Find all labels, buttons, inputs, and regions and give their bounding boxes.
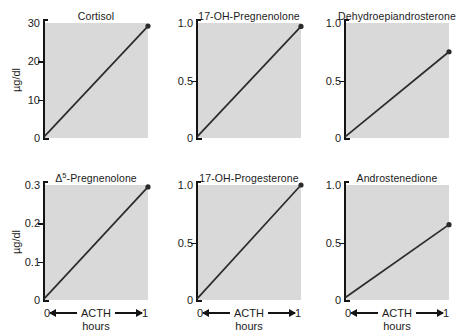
y-axis-label: µg/dl bbox=[10, 57, 22, 103]
y-axis-bottom-cap bbox=[344, 138, 350, 140]
y-axis-tick-label: 0 bbox=[34, 132, 40, 144]
y-axis-tick-label: 1.0 bbox=[178, 179, 193, 191]
y-axis-bottom-cap bbox=[43, 300, 49, 302]
panel-title: Androstenedione bbox=[357, 172, 438, 184]
panel-title: 17-OH-Progesterone bbox=[199, 172, 298, 184]
data-series-plot bbox=[44, 23, 148, 138]
data-line bbox=[345, 52, 449, 137]
panel-title: Cortisol bbox=[78, 10, 114, 22]
y-axis-top-cap bbox=[196, 181, 201, 183]
arrow-right-icon bbox=[115, 312, 142, 314]
data-line bbox=[345, 225, 449, 298]
plot-area-wrapper: 00.10.20.3 bbox=[44, 185, 148, 300]
x-axis-arrow-group: ACTH bbox=[50, 308, 142, 319]
plot-area-wrapper: 00.51.0 bbox=[345, 185, 449, 300]
y-axis-top-cap bbox=[43, 181, 48, 183]
data-point-marker bbox=[145, 23, 150, 28]
x-axis: 0ACTH1hours bbox=[197, 306, 301, 333]
y-axis-tick-label: 0 bbox=[187, 132, 193, 144]
data-line bbox=[197, 185, 301, 299]
y-axis-bottom-cap bbox=[196, 300, 202, 302]
y-axis-tick-label: 0.5 bbox=[326, 75, 341, 87]
panel-title: Dehydroepiandrosterone bbox=[338, 10, 456, 22]
y-axis-tick-label: 1.0 bbox=[326, 17, 341, 29]
x-axis-name: ACTH bbox=[80, 308, 112, 319]
arrow-left-icon bbox=[203, 312, 230, 314]
chart-panel: Dehydroepiandrosterone00.51.0 bbox=[315, 10, 453, 180]
data-line bbox=[44, 26, 148, 137]
chart-panel: 17-OH-Pregnenolone00.51.0 bbox=[167, 10, 305, 180]
y-axis-top-cap bbox=[43, 19, 48, 21]
x-axis: 0ACTH1hours bbox=[44, 306, 148, 333]
data-series-plot bbox=[197, 185, 301, 300]
y-axis-top-cap bbox=[344, 181, 349, 183]
y-axis-tick-label: 0.1 bbox=[25, 256, 40, 268]
data-point-marker bbox=[298, 182, 303, 187]
data-point-marker bbox=[298, 24, 303, 29]
y-axis-tick-label: 0 bbox=[34, 294, 40, 306]
data-series-plot bbox=[44, 185, 148, 300]
x-axis-arrow-group: ACTH bbox=[351, 308, 443, 319]
x-axis-units-label: hours bbox=[197, 320, 301, 333]
data-series-plot bbox=[345, 185, 449, 300]
y-axis-tick-label: 20 bbox=[28, 55, 40, 67]
y-axis-tick-label: 0.5 bbox=[326, 237, 341, 249]
data-point-marker bbox=[446, 49, 451, 54]
data-point-marker bbox=[446, 222, 451, 227]
y-axis-tick-label: 0.3 bbox=[25, 179, 40, 191]
y-axis-bottom-cap bbox=[196, 138, 202, 140]
y-axis-tick-label: 0.2 bbox=[25, 217, 40, 229]
arrow-left-icon bbox=[351, 312, 378, 314]
arrow-left-icon bbox=[50, 312, 77, 314]
y-axis-tick-label: 30 bbox=[28, 17, 40, 29]
panel-title: Δ5-Pregnenolone bbox=[55, 172, 137, 184]
x-axis-units-label: hours bbox=[44, 320, 148, 333]
x-axis-name: ACTH bbox=[233, 308, 265, 319]
y-axis-label: µg/dl bbox=[10, 219, 22, 265]
x-axis-arrow-row: 0ACTH1 bbox=[44, 306, 148, 320]
steroid-response-figure: Cortisol0102030µg/dl17-OH-Pregnenolone00… bbox=[0, 0, 467, 336]
x-axis-arrow-row: 0ACTH1 bbox=[197, 306, 301, 320]
y-axis-tick-label: 10 bbox=[28, 94, 40, 106]
data-line bbox=[197, 26, 301, 136]
y-axis-tick-label: 0 bbox=[335, 294, 341, 306]
y-axis-tick-label: 0.5 bbox=[178, 75, 193, 87]
y-axis-bottom-cap bbox=[43, 138, 49, 140]
x-axis-name: ACTH bbox=[381, 308, 413, 319]
x-axis-units-label: hours bbox=[345, 320, 449, 333]
x-axis-arrow-group: ACTH bbox=[203, 308, 295, 319]
y-axis-bottom-cap bbox=[344, 300, 350, 302]
plot-area-wrapper: 00.51.0 bbox=[197, 185, 301, 300]
chart-panel: Cortisol0102030µg/dl bbox=[14, 10, 152, 180]
arrow-right-icon bbox=[268, 312, 295, 314]
chart-panel: Androstenedione00.51.00ACTH1hours bbox=[315, 172, 453, 336]
y-axis-tick-label: 0.5 bbox=[178, 237, 193, 249]
y-axis-top-cap bbox=[196, 19, 201, 21]
y-axis-top-cap bbox=[344, 19, 349, 21]
y-axis-tick-label: 1.0 bbox=[178, 17, 193, 29]
plot-area-wrapper: 0102030 bbox=[44, 23, 148, 138]
panel-title: 17-OH-Pregnenolone bbox=[198, 10, 300, 22]
chart-panel: 17-OH-Progesterone00.51.00ACTH1hours bbox=[167, 172, 305, 336]
data-point-marker bbox=[145, 184, 150, 189]
y-axis-tick-label: 0 bbox=[335, 132, 341, 144]
x-axis-arrow-row: 0ACTH1 bbox=[345, 306, 449, 320]
arrow-right-icon bbox=[416, 312, 443, 314]
y-axis-tick-label: 0 bbox=[187, 294, 193, 306]
panel-title-rest: -Pregnenolone bbox=[67, 172, 137, 184]
plot-area-wrapper: 00.51.0 bbox=[345, 23, 449, 138]
data-line bbox=[44, 187, 148, 299]
plot-area-wrapper: 00.51.0 bbox=[197, 23, 301, 138]
data-series-plot bbox=[345, 23, 449, 138]
y-axis-tick-label: 1.0 bbox=[326, 179, 341, 191]
chart-panel: Δ5-Pregnenolone00.10.20.3µg/dl0ACTH1hour… bbox=[14, 172, 152, 336]
x-axis: 0ACTH1hours bbox=[345, 306, 449, 333]
data-series-plot bbox=[197, 23, 301, 138]
